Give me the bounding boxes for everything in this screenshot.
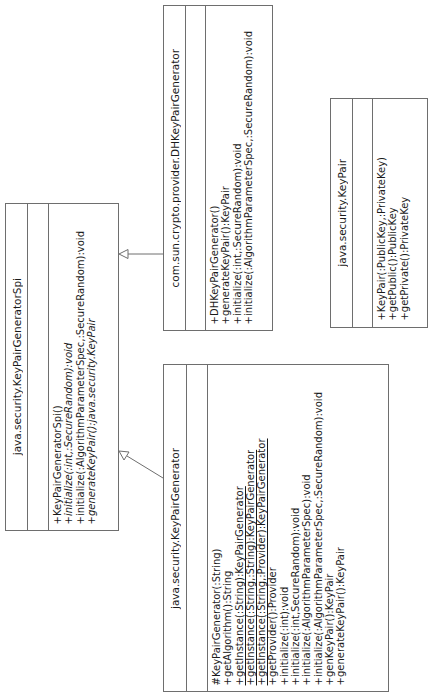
relationship-layer	[0, 0, 433, 695]
generalization-dh-to-spi	[119, 250, 163, 259]
hollow-triangle-arrowhead-icon	[119, 451, 129, 460]
generalization-kpg-to-spi	[119, 451, 163, 478]
hollow-triangle-arrowhead-icon	[119, 250, 128, 259]
